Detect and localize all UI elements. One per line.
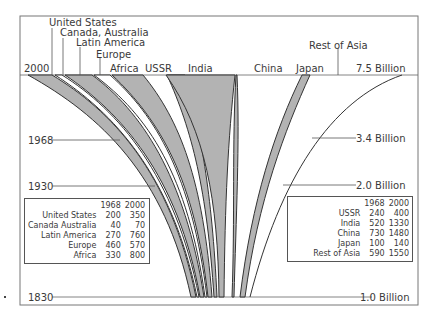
total-2000: 7.5 Billion	[356, 63, 406, 74]
label-latin-america: Latin America	[76, 37, 145, 48]
year-1968: 1968	[28, 135, 53, 146]
label-rest-of-asia: Rest of Asia	[309, 40, 368, 51]
total-1968: 3.4 Billion	[356, 133, 406, 144]
year-1930: 1930	[28, 181, 53, 192]
table-right: 19682000 USSR240400 India5201330 China73…	[287, 196, 413, 262]
year-2000: 2000	[24, 63, 49, 74]
year-1830: 1830	[28, 292, 53, 303]
fan-chart: United States Canada, Australia Latin Am…	[0, 0, 432, 317]
col-2000: 2000	[121, 201, 145, 211]
band-china	[232, 75, 238, 297]
table-row: USSR240400	[313, 209, 409, 219]
total-1830: 1.0 Billion	[360, 292, 410, 303]
label-india: India	[188, 63, 213, 74]
table-left: 19682000 United States200350 Canada Aust…	[24, 198, 150, 264]
col-1968: 1968	[360, 199, 384, 209]
col-2000: 2000	[385, 199, 409, 209]
total-1930: 2.0 Billion	[356, 180, 406, 191]
label-europe: Europe	[96, 49, 131, 60]
label-africa: Africa	[110, 63, 139, 74]
band-japan	[240, 75, 310, 297]
table-row: Japan100140	[313, 239, 409, 249]
table-row: Canada Australia4070	[28, 221, 145, 231]
label-china: China	[254, 63, 283, 74]
table-row: Africa330800	[28, 251, 145, 261]
table-row: Rest of Asia5901550	[313, 249, 409, 259]
label-ussr: USSR	[145, 63, 172, 74]
table-row: China7301480	[313, 229, 409, 239]
col-1968: 1968	[96, 201, 120, 211]
table-row: India5201330	[313, 219, 409, 229]
stray-mark	[4, 296, 6, 298]
table-row: Latin America270760	[28, 231, 145, 241]
label-japan: Japan	[295, 63, 324, 74]
table-row: Europe460570	[28, 241, 145, 251]
table-row: United States200350	[28, 211, 145, 221]
